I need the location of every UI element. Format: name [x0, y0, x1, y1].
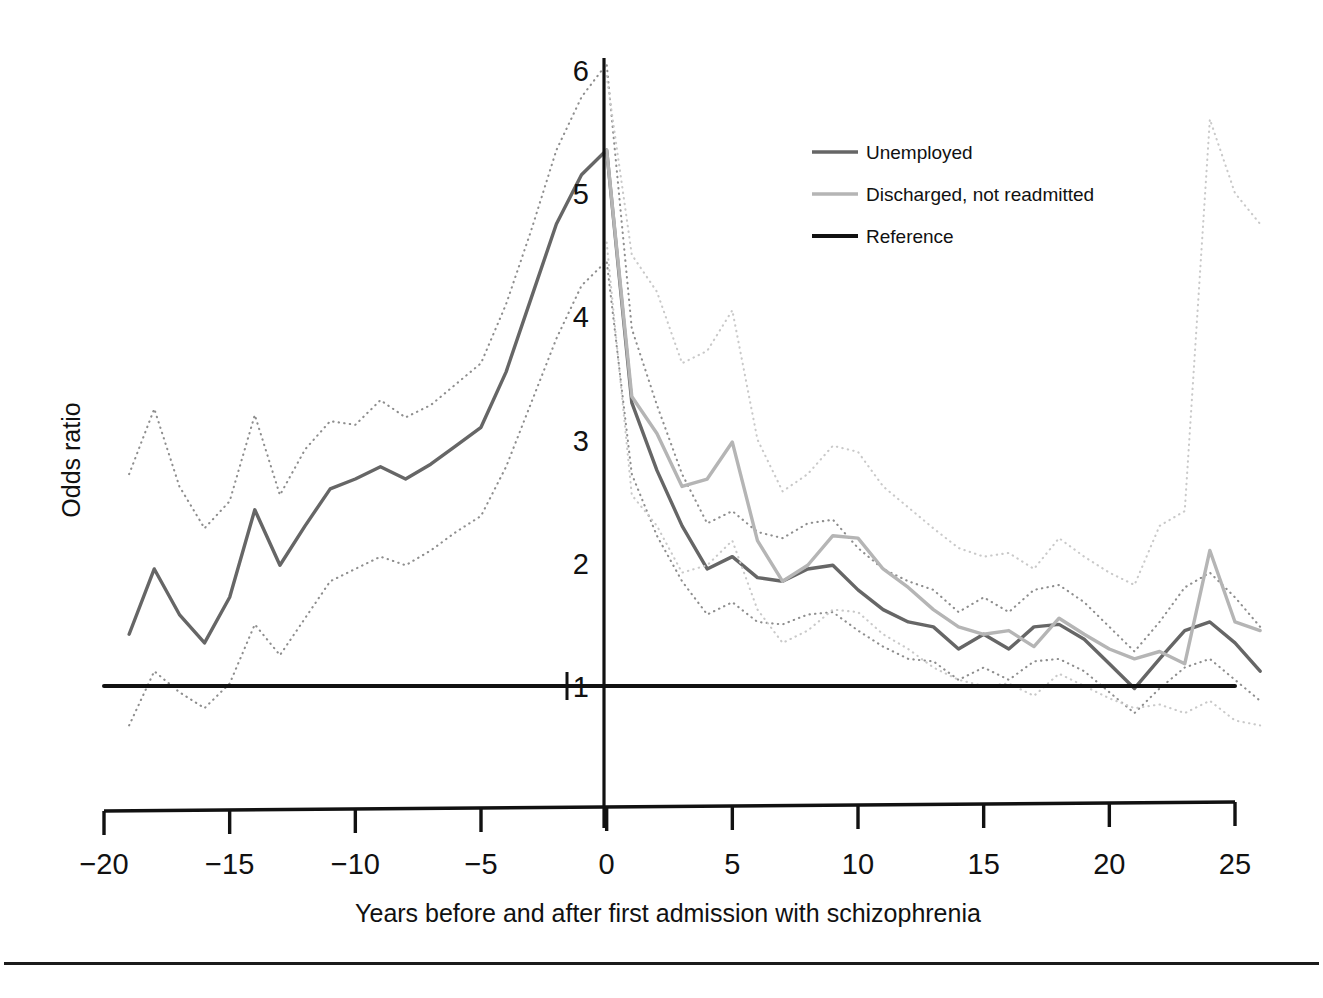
y-axis-tick-label: 1	[573, 671, 589, 703]
legend-label: Reference	[866, 226, 954, 247]
caption-divider-rule	[4, 962, 1319, 965]
legend-label: Discharged, not readmitted	[866, 184, 1094, 205]
legend-label: Unemployed	[866, 142, 973, 163]
x-axis-tick-label: 10	[842, 848, 874, 880]
x-axis-tick-label: −10	[331, 848, 380, 880]
x-axis-tick-label: 25	[1219, 848, 1251, 880]
y-axis-tick-label: 4	[573, 301, 589, 333]
x-axis-tick-label: 0	[599, 848, 615, 880]
y-axis-tick-label: 5	[573, 178, 589, 210]
figure-container: −20−15−10−50510152025 123456 Odds ratio …	[0, 0, 1323, 998]
caption-region	[0, 978, 1323, 998]
x-axis-tick-label: −5	[464, 848, 497, 880]
y-axis-tick-label: 6	[573, 55, 589, 87]
y-axis-title: Odds ratio	[57, 402, 85, 517]
x-axis-tick-label: 5	[724, 848, 740, 880]
x-axis-title: Years before and after first admission w…	[355, 899, 981, 927]
x-axis-tick-label: −15	[205, 848, 254, 880]
x-axis-tick-label: 15	[968, 848, 1000, 880]
x-axis-tick-label: −20	[79, 848, 128, 880]
y-axis-tick-label: 3	[573, 425, 589, 457]
y-axis-tick-label: 2	[573, 548, 589, 580]
x-axis-tick-label: 20	[1093, 848, 1125, 880]
odds-ratio-line-chart: −20−15−10−50510152025 123456 Odds ratio …	[0, 0, 1323, 998]
